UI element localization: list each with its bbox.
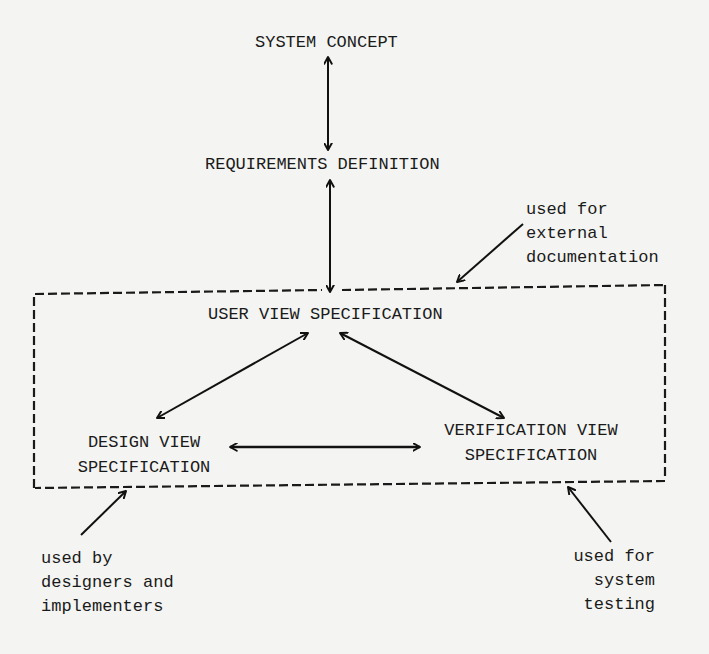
annotation-testing-line2: system bbox=[550, 569, 655, 593]
node-design-view-line2: SPECIFICATION bbox=[66, 455, 222, 480]
node-verification-view-specification: VERIFICATION VIEW SPECIFICATION bbox=[428, 418, 634, 468]
annotation-external-documentation: used for external documentation bbox=[526, 198, 659, 270]
node-system-concept: SYSTEM CONCEPT bbox=[255, 30, 398, 55]
annotation-testing-line3: testing bbox=[550, 593, 655, 617]
arrow-user-view-design-view bbox=[157, 333, 308, 418]
annotation-system-testing: used for system testing bbox=[550, 545, 655, 617]
pointer-designers bbox=[81, 491, 126, 535]
node-verification-view-line2: SPECIFICATION bbox=[428, 443, 634, 468]
pointer-system-testing bbox=[568, 487, 611, 542]
pointer-external-documentation bbox=[457, 224, 523, 282]
node-design-view-line1: DESIGN VIEW bbox=[66, 430, 222, 455]
node-system-concept-label: SYSTEM CONCEPT bbox=[255, 30, 398, 55]
node-requirements-definition: REQUIREMENTS DEFINITION bbox=[205, 152, 440, 177]
arrow-user-view-verification-view bbox=[340, 333, 504, 418]
annotation-designers-line2: designers and bbox=[41, 571, 174, 595]
annotation-designers-line3: implementers bbox=[41, 595, 174, 619]
node-design-view-specification: DESIGN VIEW SPECIFICATION bbox=[66, 430, 222, 480]
annotation-testing-line1: used for bbox=[550, 545, 655, 569]
node-requirements-definition-label: REQUIREMENTS DEFINITION bbox=[205, 152, 440, 177]
node-user-view-specification: USER VIEW SPECIFICATION bbox=[208, 302, 443, 327]
specification-diagram: SYSTEM CONCEPT REQUIREMENTS DEFINITION U… bbox=[0, 0, 709, 654]
annotation-external-line1: used for bbox=[526, 198, 659, 222]
annotation-designers-implementers: used by designers and implementers bbox=[41, 547, 174, 619]
annotation-external-line3: documentation bbox=[526, 246, 659, 270]
annotation-external-line2: external bbox=[526, 222, 659, 246]
node-verification-view-line1: VERIFICATION VIEW bbox=[428, 418, 634, 443]
node-user-view-specification-label: USER VIEW SPECIFICATION bbox=[208, 302, 443, 327]
annotation-designers-line1: used by bbox=[41, 547, 174, 571]
